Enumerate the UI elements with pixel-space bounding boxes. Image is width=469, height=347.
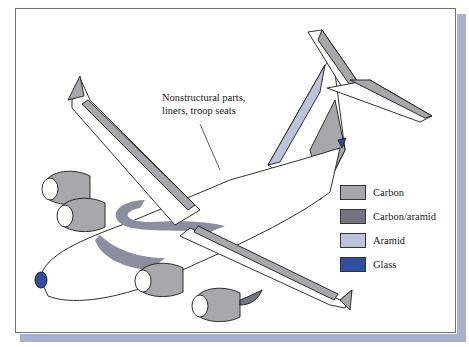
aramid-swatch bbox=[340, 233, 366, 248]
legend-label: Carbon bbox=[373, 187, 404, 198]
nose-radome-glass bbox=[35, 272, 47, 288]
legend-item-glass: Glass bbox=[340, 252, 436, 276]
material-legend: Carbon Carbon/aramid Aramid Glass bbox=[340, 180, 436, 276]
gear-fairing-carbon-aramid bbox=[240, 290, 262, 305]
glass-swatch bbox=[340, 257, 366, 272]
legend-item-carbon: Carbon bbox=[340, 180, 436, 204]
left-winglet bbox=[68, 76, 84, 100]
legend-item-aramid: Aramid bbox=[340, 228, 436, 252]
legend-label: Glass bbox=[373, 259, 396, 270]
callout-leader-line bbox=[200, 124, 220, 170]
aircraft-illustration bbox=[0, 0, 469, 347]
carbon-aramid-swatch bbox=[340, 209, 366, 224]
callout-line-1: Nonstructural parts, bbox=[162, 91, 245, 104]
nonstructural-parts-callout: Nonstructural parts, liners, troop seats bbox=[162, 91, 245, 117]
legend-item-carbon-aramid: Carbon/aramid bbox=[340, 204, 436, 228]
legend-label: Aramid bbox=[373, 235, 405, 246]
engine-right-outer bbox=[192, 288, 240, 321]
callout-line-2: liners, troop seats bbox=[162, 104, 245, 117]
legend-label: Carbon/aramid bbox=[373, 211, 436, 222]
carbon-swatch bbox=[340, 185, 366, 200]
